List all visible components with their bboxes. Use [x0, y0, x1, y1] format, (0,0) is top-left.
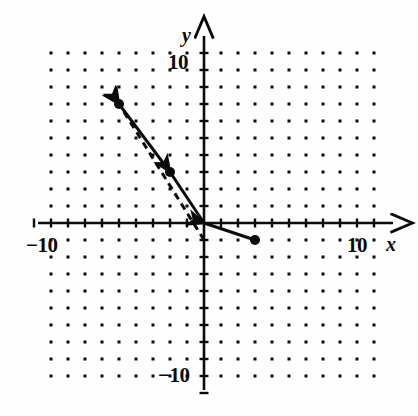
grid-dot [135, 188, 138, 191]
grid-dot [118, 375, 121, 378]
grid-dot [271, 103, 274, 106]
grid-dot [237, 137, 240, 140]
grid-dot [288, 52, 291, 55]
grid-dot [339, 86, 342, 89]
grid-dot [254, 341, 257, 344]
grid-dot [135, 171, 138, 174]
grid-dot [101, 137, 104, 140]
grid-dot [220, 290, 223, 293]
grid-dot [152, 341, 155, 344]
grid-dot [50, 307, 53, 310]
grid-dot [84, 120, 87, 123]
grid-dot [237, 307, 240, 310]
grid-dot [50, 188, 53, 191]
grid-dot [67, 273, 70, 276]
solid-vector-segment [204, 223, 255, 240]
grid-dot [271, 341, 274, 344]
grid-dot [50, 290, 53, 293]
grid-dot [288, 120, 291, 123]
grid-dot [169, 120, 172, 123]
grid-dot [101, 290, 104, 293]
grid-dot [322, 307, 325, 310]
grid-dot [67, 137, 70, 140]
grid-dot [152, 103, 155, 106]
grid-dot [237, 375, 240, 378]
grid-dot [186, 256, 189, 259]
grid-dot [254, 137, 257, 140]
grid-dot [271, 205, 274, 208]
grid-dot [101, 256, 104, 259]
grid-dot [237, 239, 240, 242]
grid-dot [288, 188, 291, 191]
grid-dot [339, 256, 342, 259]
grid-dot [254, 86, 257, 89]
grid-dot [271, 273, 274, 276]
grid-dot [67, 239, 70, 242]
grid-dot [118, 273, 121, 276]
grid-dot [50, 52, 53, 55]
grid-dot [101, 273, 104, 276]
grid-dot [254, 103, 257, 106]
grid-dot [373, 188, 376, 191]
grid-dot [220, 375, 223, 378]
grid-dot [254, 290, 257, 293]
grid-dot [118, 307, 121, 310]
grid-dot [339, 205, 342, 208]
grid-dot [186, 188, 189, 191]
grid-dot [50, 86, 53, 89]
grid-dot [237, 103, 240, 106]
grid-dot [339, 52, 342, 55]
grid-dot [118, 256, 121, 259]
grid-dot [169, 324, 172, 327]
grid-dot [373, 69, 376, 72]
grid-dot [356, 273, 359, 276]
grid-dot [339, 358, 342, 361]
grid-dot [84, 52, 87, 55]
grid-dot [152, 273, 155, 276]
grid-dot [84, 358, 87, 361]
grid-dot [186, 103, 189, 106]
grid-dot [356, 120, 359, 123]
grid-dot [135, 120, 138, 123]
grid-dot [288, 137, 291, 140]
grid-dot [271, 69, 274, 72]
grid-dot [271, 52, 274, 55]
grid-dot [373, 256, 376, 259]
grid-dot [152, 239, 155, 242]
grid-dot [322, 52, 325, 55]
grid-dot [186, 358, 189, 361]
grid-dot [322, 256, 325, 259]
grid-dot [169, 256, 172, 259]
grid-dot [67, 375, 70, 378]
grid-dot [220, 273, 223, 276]
dashed-vector-segment [119, 104, 204, 240]
grid-dot [67, 86, 70, 89]
grid-dot [322, 171, 325, 174]
grid-dot [220, 256, 223, 259]
grid-dot [220, 154, 223, 157]
grid-dot [373, 103, 376, 106]
grid-dot [220, 307, 223, 310]
grid-dot [101, 341, 104, 344]
grid-dot [305, 256, 308, 259]
grid-dot [67, 324, 70, 327]
grid-dot [373, 171, 376, 174]
grid-dot [237, 324, 240, 327]
grid-dot [237, 52, 240, 55]
grid-dot [186, 324, 189, 327]
grid-dot [271, 307, 274, 310]
grid-dot [322, 120, 325, 123]
grid-dot [84, 375, 87, 378]
grid-dot [373, 307, 376, 310]
grid-dot [101, 69, 104, 72]
grid-dot [288, 86, 291, 89]
dot-grid [50, 52, 376, 378]
grid-dot [322, 154, 325, 157]
grid-dot [135, 358, 138, 361]
grid-dot [186, 86, 189, 89]
grid-dot [169, 341, 172, 344]
grid-dot [101, 120, 104, 123]
grid-dot [288, 103, 291, 106]
grid-dot [271, 120, 274, 123]
grid-dot [254, 120, 257, 123]
